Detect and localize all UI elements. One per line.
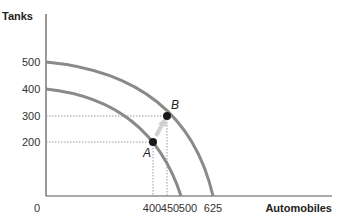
outer-ppf-curve [46, 62, 213, 196]
y-tick-300: 300 [22, 110, 40, 122]
x-tick-625: 625 [204, 202, 222, 214]
point-b [163, 112, 171, 120]
y-tick-400: 400 [22, 83, 40, 95]
origin-label: 0 [34, 202, 40, 214]
x-axis-title: Automobiles [265, 202, 332, 214]
point-b-label: B [171, 98, 179, 112]
x-tick-500: 500 [179, 202, 197, 214]
y-tick-200: 200 [22, 136, 40, 148]
point-a [149, 138, 157, 146]
point-a-label: A [142, 146, 151, 160]
ppf-chart: A B Tanks 500 400 300 200 0 400 450 500 … [0, 0, 350, 222]
y-tick-500: 500 [22, 56, 40, 68]
x-tick-450: 450 [161, 202, 179, 214]
y-axis-title: Tanks [2, 10, 33, 22]
x-tick-400: 400 [143, 202, 161, 214]
shift-arrow [156, 117, 167, 136]
